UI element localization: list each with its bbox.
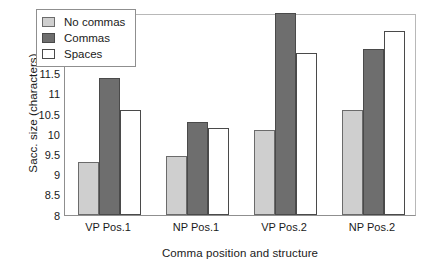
x-axis-tick-label: NP Pos.1 xyxy=(156,221,236,233)
x-axis-tick-label: VP Pos.1 xyxy=(68,221,148,233)
bar xyxy=(296,53,317,215)
bar xyxy=(187,122,208,215)
bar xyxy=(342,110,363,215)
legend-item: Spaces xyxy=(42,46,125,62)
y-axis-tick-label: 10 xyxy=(16,130,60,141)
chart-legend: No commasCommasSpaces xyxy=(36,9,136,67)
bar xyxy=(275,13,296,215)
y-axis-tick-label: 9.5 xyxy=(16,150,60,161)
legend-swatch-icon xyxy=(42,17,55,27)
legend-swatch-icon xyxy=(42,33,55,43)
x-axis-tick-label: NP Pos.2 xyxy=(332,221,412,233)
x-axis-title: Comma position and structure xyxy=(64,247,416,259)
bar xyxy=(120,110,141,215)
bar xyxy=(384,31,405,215)
legend-item: Commas xyxy=(42,30,125,46)
legend-label: Spaces xyxy=(64,48,102,60)
legend-item: No commas xyxy=(42,14,125,30)
legend-label: Commas xyxy=(64,32,110,44)
bar-chart-figure: Sacc. size (characters) 1312.51211.51110… xyxy=(0,0,428,270)
y-axis-tick-label: 11.5 xyxy=(16,69,60,80)
legend-label: No commas xyxy=(64,16,125,28)
bar xyxy=(208,128,229,215)
bar xyxy=(99,78,120,215)
y-axis-tick-label: 8.5 xyxy=(16,190,60,201)
y-axis-tick-label: 9 xyxy=(16,170,60,181)
bar xyxy=(78,162,99,215)
y-axis-tick-label: 11 xyxy=(16,89,60,100)
bar xyxy=(363,49,384,215)
x-axis-tick-label: VP Pos.2 xyxy=(244,221,324,233)
y-axis-tick-label: 10.5 xyxy=(16,110,60,121)
y-axis-tick-label: 8 xyxy=(16,211,60,222)
legend-swatch-icon xyxy=(42,49,55,59)
bar xyxy=(166,156,187,215)
bar xyxy=(254,130,275,215)
